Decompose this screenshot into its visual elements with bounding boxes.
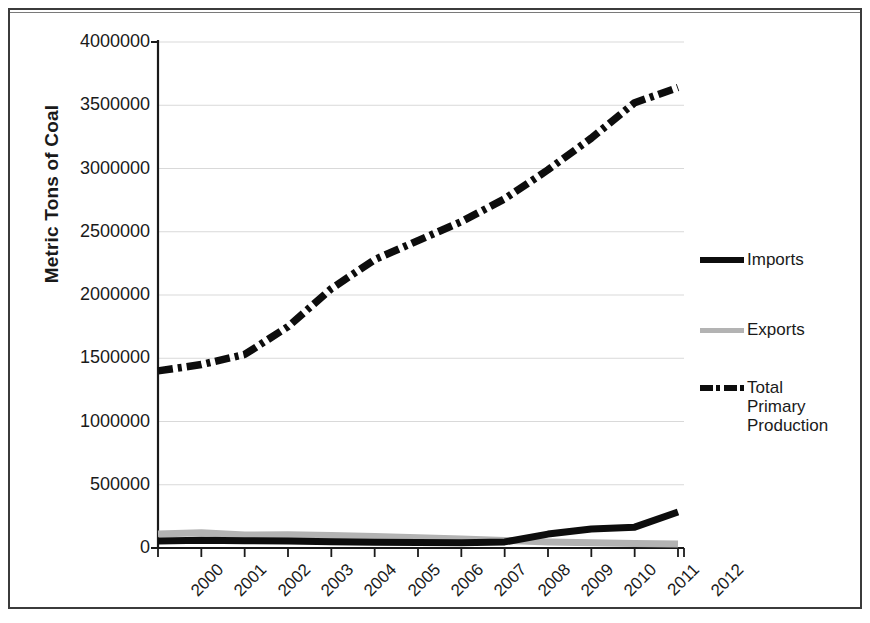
legend-label-imports: Imports [746, 250, 804, 269]
series-line-total-primary-production [158, 88, 678, 371]
legend-marker-exports-icon [700, 321, 746, 339]
legend-item-total-primary-production[interactable]: Total Primary Production [700, 378, 828, 435]
legend-item-exports[interactable]: Exports [700, 320, 805, 339]
legend-label-tpp-line-1: Total [747, 378, 783, 397]
legend-label-tpp-line-3: Production [747, 416, 828, 435]
legend-label-total-primary-production: Total Primary Production [746, 378, 828, 435]
legend-marker-total-primary-production-icon [700, 379, 746, 397]
legend-label-exports: Exports [746, 320, 805, 339]
chart-page: Metric Tons of Coal 05000001000000150000… [0, 0, 870, 623]
plot-canvas [0, 0, 870, 623]
line-chart: Metric Tons of Coal 05000001000000150000… [0, 0, 870, 623]
legend-marker-imports-icon [700, 251, 746, 269]
legend-label-tpp-line-2: Primary [747, 397, 806, 416]
legend-item-imports[interactable]: Imports [700, 250, 804, 269]
